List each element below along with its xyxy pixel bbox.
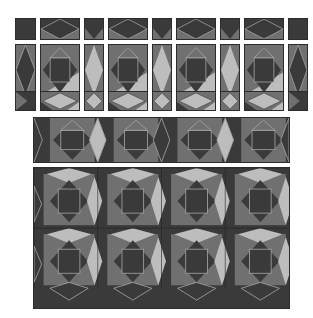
row-a-tile-3 (84, 18, 104, 40)
row-b-tile-6 (176, 44, 216, 96)
row-b-tile-1 (15, 44, 36, 96)
row-c-tile-8 (244, 91, 284, 111)
row-b-tile-3 (84, 44, 104, 96)
row-a-tile-8 (244, 18, 284, 40)
row-b-tile-9 (288, 44, 308, 96)
row-c-tile-5 (152, 91, 172, 111)
row-c-tile-2 (40, 91, 80, 111)
row-a-tile-9 (288, 18, 308, 40)
row-c-tile-7 (220, 91, 240, 111)
row-a-tile-2 (40, 18, 80, 40)
row-a-tile-6 (176, 18, 216, 40)
row-c-tile-4 (108, 91, 148, 111)
row-b-tile-8 (244, 44, 284, 96)
row-c-tile-6 (176, 91, 216, 111)
assembled-band-strip (33, 117, 290, 163)
row-b-tile-7 (220, 44, 240, 96)
row-c-tile-1 (15, 91, 36, 111)
row-c-tile-3 (84, 91, 104, 111)
row-a-tile-7 (220, 18, 240, 40)
row-a-tile-5 (152, 18, 172, 40)
row-b-tile-5 (152, 44, 172, 96)
row-a-tile-4 (108, 18, 148, 40)
row-a-tile-1 (15, 18, 36, 40)
assembled-panel (33, 167, 290, 309)
row-b-tile-2 (40, 44, 80, 96)
row-c-tile-9 (288, 91, 308, 111)
row-b-tile-4 (108, 44, 148, 96)
